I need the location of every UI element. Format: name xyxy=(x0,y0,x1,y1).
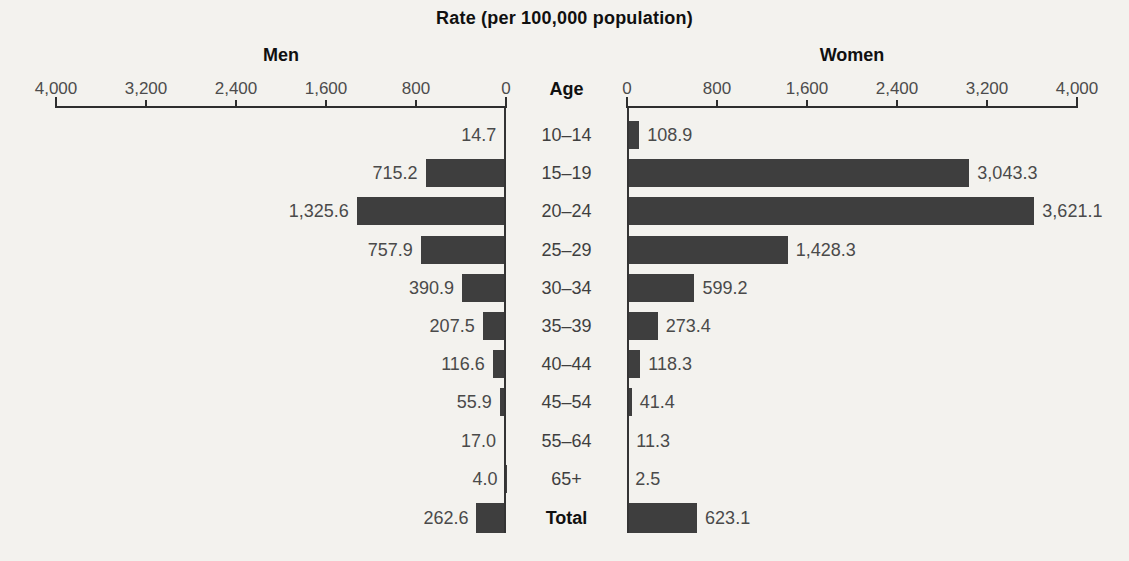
men-value-label: 4.0 xyxy=(473,465,498,493)
men-axis-tick xyxy=(415,100,417,108)
women-value-label: 3,043.3 xyxy=(977,159,1037,187)
women-axis-tick xyxy=(986,100,988,108)
men-value-label: 262.6 xyxy=(423,503,468,533)
women-value-label: 118.3 xyxy=(648,350,692,378)
women-bar xyxy=(627,274,694,302)
women-axis-tick-label: 2,400 xyxy=(855,79,939,99)
men-axis-tick-label: 1,600 xyxy=(284,79,368,99)
women-bar xyxy=(627,159,969,187)
women-axis-tick xyxy=(896,100,898,108)
men-value-label: 207.5 xyxy=(430,312,475,340)
women-bar xyxy=(627,503,697,533)
men-bar xyxy=(476,503,506,533)
men-axis-header: Men xyxy=(56,45,506,66)
women-value-label: 108.9 xyxy=(647,121,692,149)
women-value-label: 1,428.3 xyxy=(796,236,856,264)
men-axis-tick-label: 2,400 xyxy=(194,79,278,99)
men-axis-tick-label: 3,200 xyxy=(104,79,188,99)
men-bar xyxy=(357,197,506,225)
women-axis-tick-label: 3,200 xyxy=(945,79,1029,99)
women-value-label: 2.5 xyxy=(635,465,660,493)
men-value-label: 55.9 xyxy=(457,388,492,416)
age-label: 25–29 xyxy=(506,236,627,264)
men-axis-tick xyxy=(325,100,327,108)
men-bar xyxy=(462,274,506,302)
chart-title: Rate (per 100,000 population) xyxy=(0,8,1129,29)
age-label: 65+ xyxy=(506,465,627,493)
age-label: 10–14 xyxy=(506,121,627,149)
men-value-label: 1,325.6 xyxy=(289,197,349,225)
men-value-label: 715.2 xyxy=(373,159,418,187)
men-bar xyxy=(426,159,506,187)
men-axis-tick-label: 800 xyxy=(374,79,458,99)
women-value-label: 599.2 xyxy=(702,274,747,302)
men-bar xyxy=(483,312,506,340)
age-label: 55–64 xyxy=(506,427,627,455)
men-value-label: 17.0 xyxy=(461,427,496,455)
men-bar xyxy=(421,236,506,264)
men-value-label: 116.6 xyxy=(441,350,485,378)
age-label: 30–34 xyxy=(506,274,627,302)
age-label: Total xyxy=(506,503,627,533)
women-bar xyxy=(627,236,788,264)
women-axis-line xyxy=(627,106,1077,108)
women-axis-tick-label: 800 xyxy=(675,79,759,99)
women-value-label: 41.4 xyxy=(640,388,675,416)
women-value-label: 273.4 xyxy=(666,312,711,340)
women-bar xyxy=(627,197,1034,225)
women-bar xyxy=(627,312,658,340)
women-axis-tick xyxy=(806,100,808,108)
women-value-label: 11.3 xyxy=(636,427,670,455)
women-value-label: 3,621.1 xyxy=(1042,197,1102,225)
women-value-label: 623.1 xyxy=(705,503,750,533)
age-label: 35–39 xyxy=(506,312,627,340)
women-axis-header: Women xyxy=(627,45,1077,66)
women-axis-tick-label: 4,000 xyxy=(1035,79,1119,99)
men-axis-line xyxy=(56,106,506,108)
men-value-label: 14.7 xyxy=(461,121,496,149)
men-zero-baseline xyxy=(504,108,506,533)
women-axis-tick-label: 1,600 xyxy=(765,79,849,99)
women-zero-baseline xyxy=(627,108,629,533)
age-label: 20–24 xyxy=(506,197,627,225)
age-label: 40–44 xyxy=(506,350,627,378)
men-value-label: 757.9 xyxy=(368,236,413,264)
women-axis-tick xyxy=(716,100,718,108)
men-value-label: 390.9 xyxy=(409,274,454,302)
men-axis-tick xyxy=(145,100,147,108)
men-axis-tick-label: 4,000 xyxy=(14,79,98,99)
men-axis-tick-label: 0 xyxy=(464,79,548,99)
men-axis-tick xyxy=(235,100,237,108)
women-axis-tick-label: 0 xyxy=(585,79,669,99)
age-label: 15–19 xyxy=(506,159,627,187)
rate-pyramid-chart: Rate (per 100,000 population) Men Women … xyxy=(0,0,1129,561)
age-label: 45–54 xyxy=(506,388,627,416)
